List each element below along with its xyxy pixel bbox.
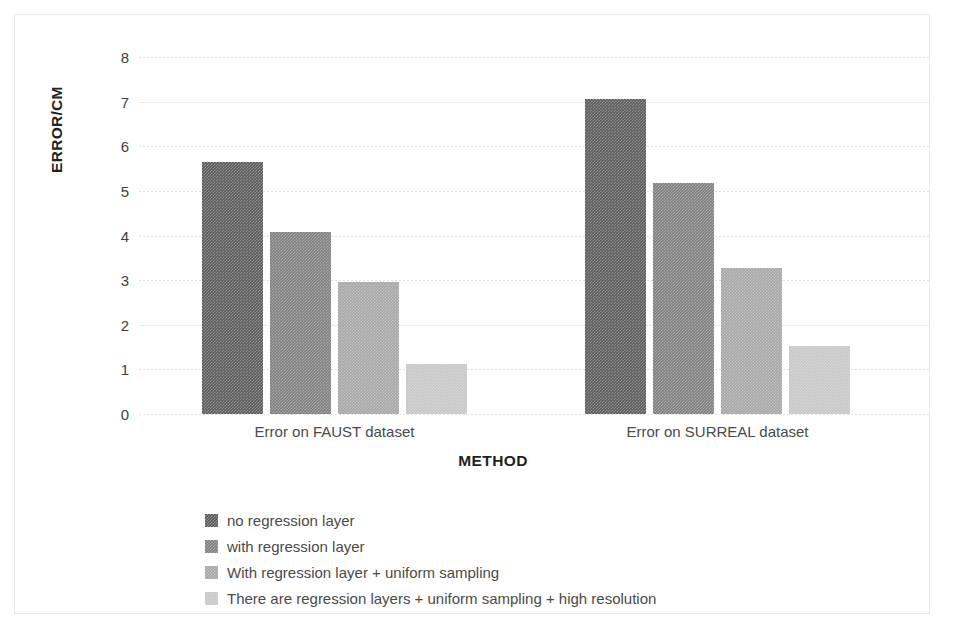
y-axis-tick-label: 7	[103, 94, 129, 109]
x-axis-category-label: Error on SURREAL dataset	[568, 423, 868, 440]
legend-swatch-icon	[205, 540, 218, 553]
legend-item: with regression layer	[205, 533, 656, 559]
y-axis-tick-label: 5	[103, 183, 129, 198]
y-axis-tick-label: 0	[103, 407, 129, 422]
y-axis-tick-labels: 876543210	[99, 57, 129, 414]
legend-item-label: no regression layer	[227, 512, 355, 529]
x-axis-title: METHOD	[15, 452, 956, 470]
bar	[585, 99, 646, 414]
bar	[789, 346, 850, 414]
y-axis-tick-label: 3	[103, 273, 129, 288]
y-axis-tick-label: 1	[103, 362, 129, 377]
legend-item-label: There are regression layers + uniform sa…	[227, 590, 656, 607]
chart-frame: ERROR/CM 876543210 Error on FAUST datase…	[14, 14, 930, 614]
gridline	[139, 102, 929, 103]
legend-swatch-icon	[205, 566, 218, 579]
legend-item-label: With regression layer + uniform sampling	[227, 564, 499, 581]
plot-area	[139, 57, 929, 414]
legend-item: With regression layer + uniform sampling	[205, 559, 656, 585]
bar	[653, 183, 714, 414]
legend-swatch-icon	[205, 514, 218, 527]
y-axis-tick-label: 6	[103, 139, 129, 154]
y-axis-title: ERROR/CM	[48, 86, 66, 173]
legend-item-label: with regression layer	[227, 538, 365, 555]
x-axis-category-label: Error on FAUST dataset	[185, 423, 485, 440]
legend-item: no regression layer	[205, 507, 656, 533]
y-axis-tick-label: 2	[103, 317, 129, 332]
bar	[270, 232, 331, 414]
bar	[721, 268, 782, 414]
bar	[202, 162, 263, 414]
bar	[338, 282, 399, 414]
chart-legend: no regression layerwith regression layer…	[205, 507, 656, 611]
gridline	[139, 57, 929, 58]
legend-swatch-icon	[205, 592, 218, 605]
gridline	[139, 414, 929, 415]
gridline	[139, 146, 929, 147]
y-axis-tick-label: 8	[103, 50, 129, 65]
bar	[406, 364, 467, 414]
legend-item: There are regression layers + uniform sa…	[205, 585, 656, 611]
y-axis-tick-label: 4	[103, 228, 129, 243]
